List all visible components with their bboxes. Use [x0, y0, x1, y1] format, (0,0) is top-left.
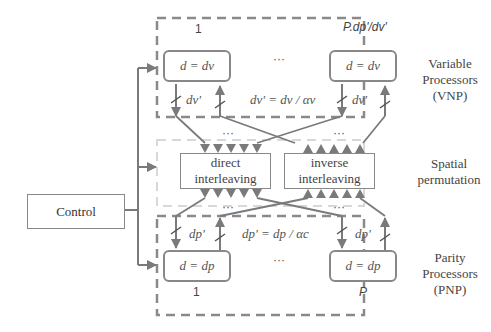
pnp-group-label: Parity Processors (PNP): [410, 250, 490, 298]
vnp-ratio-eq: dv' = dv / αv: [250, 92, 315, 108]
pnp-first-index: 1: [193, 285, 200, 299]
vnp-group-label: Variable Processors (VNP): [410, 56, 490, 104]
spatial-ellipsis-bottom-right: ···: [333, 200, 345, 214]
spatial-group-label: Spatial permutation: [408, 156, 490, 188]
pnp-ratio-eq: dp' = dp / αc: [242, 226, 309, 242]
direct-interleaving-block: direct interleaving: [180, 153, 271, 189]
spatial-ellipsis-bottom-left: ···: [222, 200, 234, 214]
pnp-last-index: P: [359, 285, 367, 299]
control-label: Control: [56, 204, 96, 220]
spatial-ellipsis-top-right: ···: [333, 126, 345, 140]
pnp-link-label-right: dp': [355, 226, 371, 242]
vnp-ellipsis: ···: [273, 52, 285, 66]
inverse-interleaving-block: inverse interleaving: [284, 153, 375, 189]
pnp-link-label-left: dp': [189, 226, 205, 242]
pnp-ellipsis: ···: [273, 253, 285, 267]
vnp-processor-eq: d = dv: [180, 58, 214, 74]
pnp-processor-eq: d = dp: [346, 258, 381, 274]
pnp-processor-last: d = dp: [329, 250, 397, 282]
spatial-ellipsis-top-left: ···: [222, 126, 234, 140]
vnp-last-index: P.dp'/dv': [343, 20, 387, 34]
vnp-first-index: 1: [195, 22, 202, 36]
pnp-processor-1: d = dp: [163, 250, 231, 282]
vnp-link-label-left: dv': [186, 92, 201, 108]
control-block: Control: [27, 194, 125, 229]
vnp-processor-eq: d = dv: [346, 58, 380, 74]
vnp-link-label-right: dv': [352, 92, 367, 108]
pnp-processor-eq: d = dp: [180, 258, 215, 274]
vnp-processor-1: d = dv: [163, 50, 231, 82]
vnp-processor-last: d = dv: [329, 50, 397, 82]
